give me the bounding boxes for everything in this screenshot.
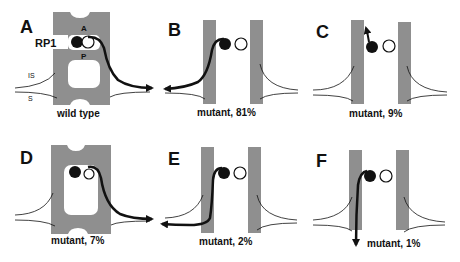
rp1-label: RP1 [35,37,56,49]
panel-letter: C [316,22,329,42]
panel-caption: mutant, 81% [197,107,256,118]
site-p-label: P [81,52,87,61]
panel-letter: B [168,20,181,40]
figure: A RP1 A P IS S wild type B mutant, 81% C… [0,0,460,262]
panel-c: C mutant, 9% [313,20,447,119]
panel-a: A RP1 A P IS S wild type [15,12,152,119]
is-label: IS [28,72,35,79]
panel-b: B mutant, 81% [165,20,298,118]
panel-caption: mutant, 9% [349,108,402,119]
panel-f: F mutant, 1% [313,150,445,249]
panel-letter: A [20,17,33,37]
site-a-label: A [81,24,87,33]
panel-letter: D [20,148,33,168]
panel-caption: mutant, 2% [199,236,252,247]
panel-caption: mutant, 1% [367,238,420,249]
panel-caption: mutant, 7% [51,235,104,246]
s-label: S [28,95,33,102]
panel-letter: E [168,149,180,169]
panel-d: D mutant, 7% [15,145,152,246]
diagram-canvas: A RP1 A P IS S wild type B mutant, 81% C… [0,0,460,262]
panel-e: E mutant, 2% [162,147,297,247]
panel-letter: F [316,151,327,171]
panel-caption: wild type [56,108,100,119]
